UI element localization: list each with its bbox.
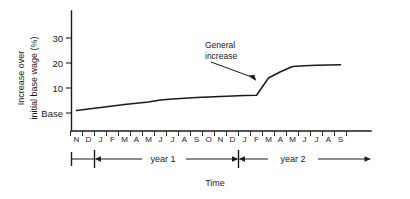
y-axis-title-line1: Increase over	[16, 51, 26, 106]
y-tick-label-10: 10	[52, 83, 63, 94]
month-label-2: J	[99, 135, 103, 144]
month-label-13: D	[230, 135, 236, 144]
general-increase-annotation: General increase	[205, 40, 256, 80]
month-label-5: A	[134, 135, 140, 144]
month-label-15: F	[254, 135, 259, 144]
y-axis-tick-labels: 30 20 10 Base	[41, 33, 63, 119]
year2-label: year 2	[280, 154, 305, 164]
month-label-4: M	[121, 135, 128, 144]
month-label-3: F	[110, 135, 115, 144]
month-label-7: J	[159, 135, 163, 144]
month-label-21: A	[326, 135, 332, 144]
y-tick-label-30: 30	[52, 33, 63, 44]
month-label-18: M	[289, 135, 296, 144]
month-label-19: J	[303, 135, 307, 144]
annotation-line2: increase	[205, 51, 237, 61]
year2-right-arrowhead	[365, 156, 372, 161]
month-label-22: S	[338, 135, 343, 144]
annotation-leader-line	[211, 62, 249, 76]
wage-increase-chart: Increase over initial base wage (%) 30 2…	[0, 0, 410, 199]
y-axis-ticks	[66, 38, 72, 113]
month-label-17: A	[278, 135, 284, 144]
month-label-11: O	[205, 135, 211, 144]
period-axis: year 1 year 2	[72, 150, 372, 168]
month-label-14: J	[243, 135, 247, 144]
annotation-arrowhead	[249, 75, 256, 80]
y-tick-label-base: Base	[41, 108, 63, 119]
x-axis-title: Time	[205, 178, 225, 188]
month-label-8: J	[171, 135, 175, 144]
y-axis-title-line2: initial base wage (%)	[29, 36, 39, 119]
chart-svg: Increase over initial base wage (%) 30 2…	[0, 0, 410, 199]
year1-label: year 1	[150, 154, 175, 164]
month-label-12: N	[218, 135, 224, 144]
annotation-line1: General	[205, 40, 235, 50]
month-label-16: M	[265, 135, 272, 144]
month-label-10: S	[194, 135, 199, 144]
month-label-0: N	[74, 135, 80, 144]
x-axis-month-labels: NDJFMAMJJASONDJFMAMJJAS	[74, 135, 344, 144]
y-axis-title: Increase over initial base wage (%)	[16, 36, 39, 119]
y-tick-label-20: 20	[52, 58, 63, 69]
year1-right-arrowhead	[232, 156, 239, 161]
month-label-9: A	[182, 135, 188, 144]
month-label-1: D	[86, 135, 92, 144]
month-label-6: M	[145, 135, 152, 144]
month-label-20: J	[315, 135, 319, 144]
wage-trend-line	[77, 65, 341, 111]
